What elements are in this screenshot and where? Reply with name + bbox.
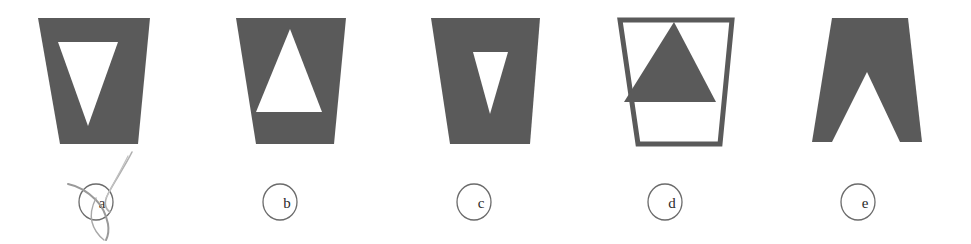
shape-a	[0, 14, 194, 154]
shape-panel-d: d	[582, 0, 776, 244]
panel-label-a: a	[0, 178, 194, 226]
label-letter-d: d	[668, 195, 676, 211]
label-letter-c: c	[478, 195, 485, 211]
label-circle-d	[648, 184, 682, 220]
label-circle-b	[263, 184, 297, 220]
shape-d	[582, 14, 776, 154]
label-letter-e: e	[862, 195, 869, 211]
shape-panel-b: b	[194, 0, 388, 244]
shape-panel-c: c	[388, 0, 582, 244]
label-circle-e	[841, 184, 875, 220]
label-circle-c	[457, 184, 491, 220]
shape-panel-a: a	[0, 0, 194, 244]
shape-c	[388, 14, 582, 154]
label-letter-a: a	[99, 195, 106, 211]
panel-label-e: e	[776, 178, 970, 226]
figure-canvas: a b	[0, 0, 971, 244]
shape-b	[194, 14, 388, 154]
shape-panel-e: e	[776, 0, 970, 244]
panel-label-d: d	[582, 178, 776, 226]
label-circle-a	[79, 184, 113, 220]
panel-label-b: b	[194, 178, 388, 226]
panel-label-c: c	[388, 178, 582, 226]
label-letter-b: b	[283, 195, 291, 211]
shape-e	[776, 14, 970, 154]
